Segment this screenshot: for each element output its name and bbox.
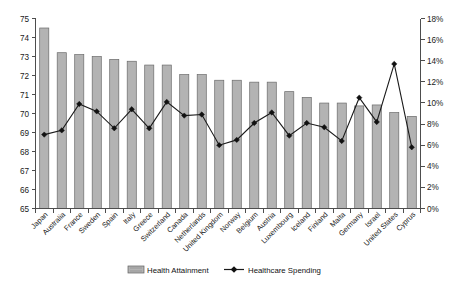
bar-france: [75, 55, 84, 209]
bar-greece: [145, 65, 154, 208]
bar-luxembourg: [285, 92, 294, 209]
bar-spain: [110, 59, 119, 208]
left-tick-label: 68: [20, 148, 30, 157]
right-tick-label: 18%: [427, 15, 443, 24]
bar-malta: [337, 103, 346, 208]
right-tick-label: 16%: [427, 36, 443, 45]
left-tick-label: 74: [20, 34, 30, 43]
right-tick-label: 14%: [427, 57, 443, 66]
left-tick-label: 70: [20, 110, 30, 119]
bar-japan: [40, 28, 49, 209]
right-tick-label: 8%: [427, 120, 439, 129]
right-tick-label: 0%: [427, 205, 439, 214]
left-tick-label: 75: [20, 15, 30, 24]
right-tick-label: 12%: [427, 78, 443, 87]
left-tick-label: 65: [20, 205, 30, 214]
bar-belgium: [250, 82, 259, 208]
bar-canada: [180, 75, 189, 209]
bar-switzerland: [162, 65, 171, 208]
legend-label-healthcare-spending: Healthcare Spending: [248, 266, 321, 275]
bar-sweden: [92, 57, 101, 209]
bar-finland: [320, 103, 329, 208]
bar-germany: [355, 106, 364, 209]
right-tick-label: 10%: [427, 99, 443, 108]
legend-label-health-attainment: Health Attainment: [147, 266, 209, 275]
right-tick-label: 2%: [427, 183, 439, 192]
legend-item-health-attainment: Health Attainment: [128, 266, 209, 275]
bar-iceland: [302, 97, 311, 208]
left-tick-label: 67: [20, 167, 30, 176]
bar-austria: [267, 82, 276, 208]
bar-united-states: [390, 113, 399, 209]
left-tick-label: 66: [20, 186, 30, 195]
left-tick-label: 73: [20, 53, 30, 62]
bar-norway: [232, 80, 241, 208]
right-tick-label: 4%: [427, 162, 439, 171]
left-tick-label: 72: [20, 72, 30, 81]
chart-container: 6566676869707172737475 0%2%4%6%8%10%12%1…: [0, 0, 457, 285]
left-tick-label: 71: [20, 91, 30, 100]
legend-bar-swatch: [128, 266, 144, 273]
right-tick-label: 6%: [427, 141, 439, 150]
dual-axis-bar-line-chart: 6566676869707172737475 0%2%4%6%8%10%12%1…: [0, 0, 457, 285]
bar-netherlands: [197, 75, 206, 209]
left-tick-label: 69: [20, 129, 30, 138]
bar-italy: [127, 61, 136, 208]
